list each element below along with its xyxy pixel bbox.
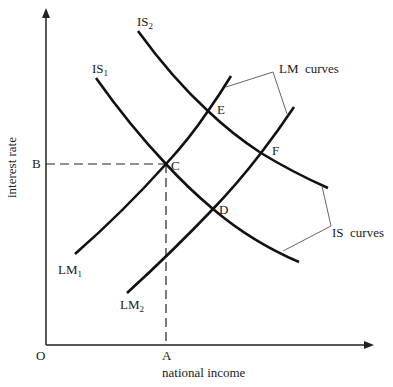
x-axis-arrow-icon xyxy=(364,341,374,349)
is1-label-text: IS xyxy=(92,61,104,76)
point-c-label: C xyxy=(171,159,180,172)
origin-label: O xyxy=(36,349,45,362)
is1-curve xyxy=(96,78,299,262)
lm2-label-text: LM xyxy=(120,297,140,312)
is1-label-sub: 1 xyxy=(104,68,109,78)
marker-b-label: B xyxy=(32,157,41,170)
is-curves-annotation: IS curves xyxy=(332,226,384,239)
lm-curves-annotation: LM curves xyxy=(279,62,339,75)
leader-lines xyxy=(226,72,331,251)
point-d-label: D xyxy=(219,203,228,216)
is2-label-sub: 2 xyxy=(149,21,154,31)
lm2-label-sub: 2 xyxy=(140,304,145,314)
point-e-label: E xyxy=(217,103,225,116)
lm1-curve xyxy=(75,76,231,254)
is2-label: IS2 xyxy=(137,15,153,28)
guides xyxy=(46,164,166,345)
y-axis-label: interest rate xyxy=(4,137,20,198)
y-axis-arrow-icon xyxy=(42,8,50,18)
lm1-label: LM1 xyxy=(58,263,82,276)
lm2-curve xyxy=(127,107,294,293)
lm2-label: LM2 xyxy=(120,298,144,311)
lm1-label-sub: 1 xyxy=(78,269,83,279)
point-f-label: F xyxy=(272,144,279,157)
marker-a-label: A xyxy=(162,349,171,362)
lm1-label-text: LM xyxy=(58,262,78,277)
x-axis-label: national income xyxy=(162,366,245,379)
is1-label: IS1 xyxy=(92,62,108,75)
is-lm-diagram xyxy=(0,0,393,387)
axes xyxy=(42,8,374,349)
is2-label-text: IS xyxy=(137,14,149,29)
lm-leader xyxy=(226,72,287,114)
is-leader xyxy=(283,186,331,251)
